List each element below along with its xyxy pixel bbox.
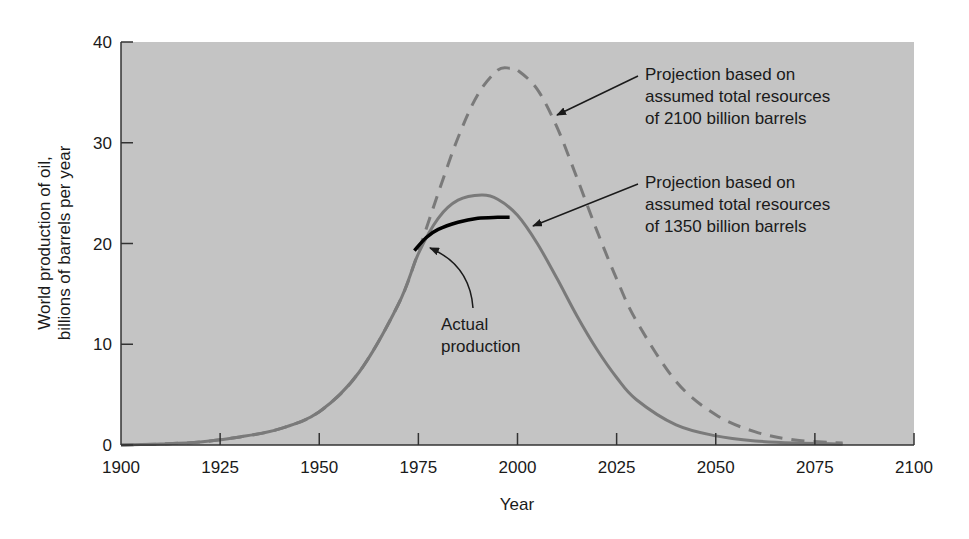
x-tick-label: 2100 [895, 458, 933, 477]
x-tick-label: 1975 [399, 458, 437, 477]
annotation-1350-text: of 1350 billion barrels [645, 217, 807, 236]
y-tick-label: 0 [103, 436, 112, 455]
annotation-actual-text: Actual [441, 315, 488, 334]
annotation-1350-text: Projection based on [645, 173, 795, 192]
x-axis-title: Year [500, 495, 535, 514]
annotation-2100-text: of 2100 billion barrels [645, 109, 807, 128]
y-tick-label: 20 [93, 235, 112, 254]
y-tick-label: 10 [93, 335, 112, 354]
annotation-1350-text: assumed total resources [645, 195, 830, 214]
y-axis-title: World production of oil, billions of bar… [35, 145, 74, 340]
annotation-actual-text: production [441, 337, 520, 356]
x-tick-label: 1925 [201, 458, 239, 477]
x-tick-label: 2075 [796, 458, 834, 477]
x-tick-label: 1950 [300, 458, 338, 477]
y-tick-label: 30 [93, 134, 112, 153]
y-axis-title-line2: billions of barrels per year [55, 145, 74, 340]
oil-production-chart: 0102030401900192519501975200020252050207… [0, 0, 969, 539]
annotation-2100-text: Projection based on [645, 65, 795, 84]
annotation-2100-text: assumed total resources [645, 87, 830, 106]
x-tick-label: 2000 [499, 458, 537, 477]
x-tick-label: 1900 [102, 458, 140, 477]
x-tick-label: 2050 [697, 458, 735, 477]
x-tick-label: 2025 [598, 458, 636, 477]
y-tick-label: 40 [93, 33, 112, 52]
y-axis-title-line1: World production of oil, [35, 156, 54, 330]
